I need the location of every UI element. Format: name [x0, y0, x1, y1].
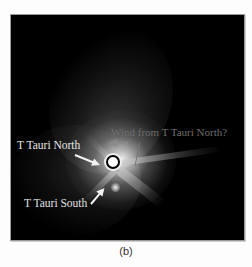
star-t-tauri-south — [111, 183, 120, 192]
label-wind: Wind from T Tauri North? — [111, 127, 227, 138]
label-t-tauri-north: T Tauri North — [17, 140, 80, 152]
figure-caption: (b) — [0, 245, 252, 257]
wind-ray-southeast — [116, 166, 165, 208]
arrow-wind-icon — [110, 141, 128, 145]
astronomy-image: T Tauri North T Tauri South Wind from T … — [10, 14, 245, 241]
label-t-tauri-south: T Tauri South — [24, 198, 87, 210]
star-t-tauri-north — [106, 155, 120, 169]
arrow-north-icon — [74, 153, 100, 166]
